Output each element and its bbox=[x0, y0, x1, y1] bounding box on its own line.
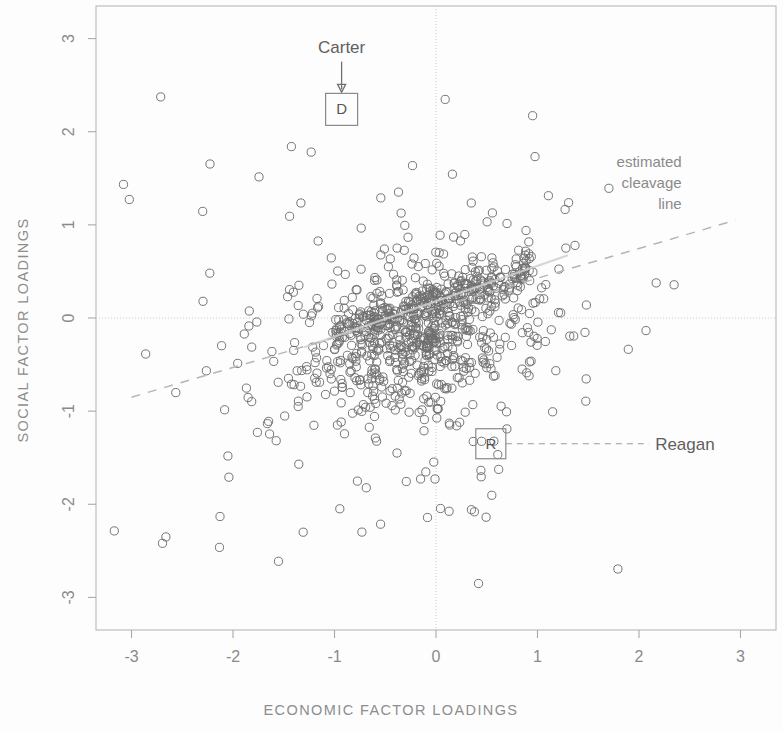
scatter-point bbox=[398, 276, 406, 284]
scatter-point bbox=[311, 359, 319, 367]
scatter-point bbox=[319, 342, 327, 350]
y-axis-tick-label: 0 bbox=[60, 313, 77, 322]
scatter-point bbox=[266, 430, 274, 438]
scatter-point bbox=[157, 93, 165, 101]
scatter-point bbox=[286, 212, 294, 220]
y-axis-tick-label: 1 bbox=[60, 220, 77, 229]
scatter-point bbox=[534, 318, 542, 326]
scatter-point bbox=[453, 374, 461, 382]
scatter-point bbox=[313, 294, 321, 302]
scatter-point bbox=[378, 393, 386, 401]
scatter-point bbox=[242, 384, 250, 392]
scatter-point bbox=[463, 340, 471, 348]
y-axis-tick-label: 3 bbox=[60, 34, 77, 43]
scatter-point bbox=[125, 195, 133, 203]
scatter-point bbox=[216, 512, 224, 520]
scatter-point bbox=[541, 337, 549, 345]
scatter-point bbox=[281, 412, 289, 420]
scatter-point bbox=[240, 330, 248, 338]
scatter-point bbox=[477, 473, 485, 481]
scatter-point bbox=[245, 307, 253, 315]
x-axis-title: ECONOMIC FACTOR LOADINGS bbox=[264, 702, 519, 718]
scatter-point bbox=[206, 160, 214, 168]
y-axis-title: SOCIAL FACTOR LOADINGS bbox=[15, 218, 31, 443]
scatter-point bbox=[581, 328, 589, 336]
scatter-point bbox=[202, 367, 210, 375]
scatter-point bbox=[287, 143, 295, 151]
scatter-point bbox=[386, 255, 394, 263]
scatter-point bbox=[274, 378, 282, 386]
scatter-point bbox=[377, 520, 385, 528]
scatter-point bbox=[294, 301, 302, 309]
scatter-point bbox=[328, 280, 336, 288]
scatter-point bbox=[448, 270, 456, 278]
scatter-point bbox=[142, 350, 150, 358]
scatter-point bbox=[313, 354, 321, 362]
scatter-point bbox=[420, 416, 428, 424]
scatter-point bbox=[340, 430, 348, 438]
scatter-point bbox=[495, 316, 503, 324]
scatter-point bbox=[474, 579, 482, 587]
scatter-point bbox=[393, 449, 401, 457]
scatter-point bbox=[314, 237, 322, 245]
carter-label: Carter bbox=[318, 38, 366, 57]
scatter-point bbox=[162, 533, 170, 541]
scatter-point bbox=[245, 322, 253, 330]
scatter-point bbox=[526, 309, 534, 317]
scatter-point bbox=[450, 233, 458, 241]
scatter-point bbox=[357, 224, 365, 232]
scatter-point bbox=[327, 254, 335, 262]
scatter-point bbox=[268, 347, 276, 355]
scatter-point bbox=[422, 468, 430, 476]
scatter-point bbox=[512, 255, 520, 263]
scatter-point bbox=[384, 263, 392, 271]
scatter-point bbox=[255, 173, 263, 181]
scatter-point bbox=[158, 539, 166, 547]
scatter-point bbox=[199, 297, 207, 305]
x-axis-tick-label: 3 bbox=[736, 648, 745, 665]
reagan-annotation: Reagan R bbox=[476, 429, 715, 459]
scatter-point bbox=[652, 279, 660, 287]
scatter-point bbox=[295, 460, 303, 468]
scatter-point bbox=[224, 452, 232, 460]
scatter-point bbox=[385, 289, 393, 297]
scatter-point bbox=[284, 293, 292, 301]
scatter-point bbox=[393, 244, 401, 252]
x-axis-tick-label: -1 bbox=[327, 648, 341, 665]
scatter-point bbox=[351, 374, 359, 382]
scatter-point bbox=[119, 180, 127, 188]
scatter-point bbox=[253, 318, 261, 326]
scatter-point bbox=[525, 328, 533, 336]
scatter-point bbox=[405, 408, 413, 416]
scatter-point bbox=[330, 387, 338, 395]
scatter-point bbox=[371, 434, 379, 442]
cleavage-label-line-1: estimated bbox=[617, 153, 682, 170]
scatter-point bbox=[358, 528, 366, 536]
scatter-point bbox=[501, 265, 509, 273]
scatter-point bbox=[110, 527, 118, 535]
scatter-point bbox=[552, 367, 560, 375]
scatter-point bbox=[294, 397, 302, 405]
x-axis: -3-2-10123 bbox=[124, 630, 745, 665]
scatter-point bbox=[582, 375, 590, 383]
scatter-point bbox=[265, 417, 273, 425]
scatter-point bbox=[670, 281, 678, 289]
scatter-point bbox=[327, 375, 335, 383]
scatter-point bbox=[313, 369, 321, 377]
scatter-point bbox=[373, 289, 381, 297]
scatter-point bbox=[448, 170, 456, 178]
scatter-point bbox=[380, 245, 388, 253]
scatter-point bbox=[582, 301, 590, 309]
scatter-point bbox=[346, 389, 354, 397]
scatter-point bbox=[321, 390, 329, 398]
scatter-point bbox=[215, 543, 223, 551]
scatter-point bbox=[549, 408, 557, 416]
scatter-point bbox=[206, 269, 214, 277]
cleavage-line-annotation: estimated cleavage line bbox=[617, 153, 682, 212]
scatter-point bbox=[401, 221, 409, 229]
scatter-point bbox=[503, 219, 511, 227]
scatter-point bbox=[497, 402, 505, 410]
scatter-points-layer bbox=[110, 93, 678, 588]
scatter-point bbox=[291, 339, 299, 347]
scatter-point bbox=[436, 504, 444, 512]
